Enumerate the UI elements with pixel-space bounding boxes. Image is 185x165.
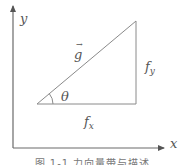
figure-caption: 图 1-1 力向量带与描述 <box>0 155 185 165</box>
fx-label: fx <box>84 115 94 128</box>
y-axis-label: y <box>20 12 27 25</box>
vector-g-text: g <box>74 47 82 62</box>
fx-subscript: x <box>89 121 94 131</box>
theta-label: θ <box>61 90 69 103</box>
fy-label: fy <box>145 60 155 73</box>
vector-arrow-icon: → <box>76 41 83 49</box>
vector-decomposition-diagram: y x → g fy θ fx 图 1-1 力向量带与描述 <box>0 0 185 165</box>
vector-g-label: → g <box>74 48 82 61</box>
hypotenuse-vector-g <box>37 21 136 104</box>
angle-arc <box>49 94 53 104</box>
x-axis-label: x <box>170 137 177 150</box>
diagram-graphics <box>0 0 185 165</box>
fy-subscript: y <box>150 66 155 76</box>
